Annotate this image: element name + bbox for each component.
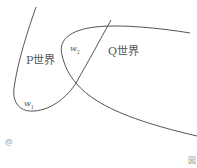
w2-label: w2: [70, 45, 80, 55]
q-world-label: Q世界: [108, 46, 139, 57]
curve-q-world: [61, 26, 197, 136]
diagram-canvas: [0, 0, 197, 168]
p-world-label: P世界: [26, 55, 55, 66]
figure-mark: 図: [188, 157, 196, 165]
w1-label: w1: [24, 100, 34, 110]
bottom-left-mark: @: [5, 138, 13, 146]
